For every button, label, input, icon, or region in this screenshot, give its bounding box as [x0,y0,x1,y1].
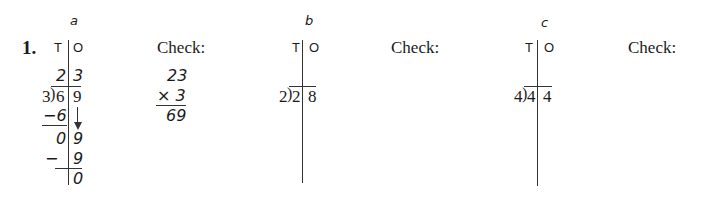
problem-letter: b [305,14,313,27]
exercise-number: 1. [22,38,36,57]
subtraction-line-1 [42,125,67,126]
check-label: Check: [391,39,439,56]
final-remainder: 0 [73,171,83,187]
tens-header: T [292,41,300,54]
dividend-ones: 9 [73,88,82,105]
check-factor-1: 23 [167,68,187,84]
quotient-ones: 3 [73,68,83,84]
problem-letter: a [70,14,78,27]
dividend-tens: 2 [292,88,301,105]
check-factor-2: × 3 [157,88,186,104]
tens-header: T [54,41,62,54]
problem-letter: c [541,16,548,29]
ones-header: O [544,41,554,54]
remainder-tens: 0 [56,131,66,147]
subtract-step-2: 9 [73,151,83,167]
division-bracket: ) [50,86,55,102]
subtract-step-1: −6 [43,108,67,124]
check-label: Check: [157,39,205,56]
check-product: 69 [166,108,186,124]
dividend-ones: 4 [543,88,552,105]
subtract-sign-2: − [45,151,58,167]
place-value-divider [302,40,303,183]
quotient-tens: 2 [56,68,66,84]
place-value-divider [537,40,538,186]
dividend-ones: 8 [308,88,317,105]
brought-down-ones: 9 [73,131,83,147]
dividend-tens: 6 [56,88,65,105]
place-value-divider [68,40,69,185]
tens-header: T [525,41,533,54]
ones-header: O [309,41,319,54]
check-label: Check: [628,39,676,56]
ones-header: O [73,41,83,54]
dividend-tens: 4 [527,88,536,105]
